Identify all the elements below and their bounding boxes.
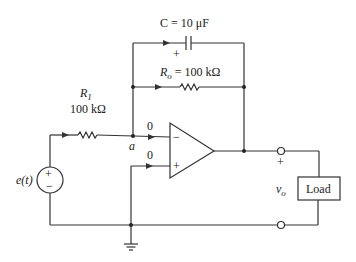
capacitor-label: C = 10 μF [160,16,209,30]
current-arrow-icon [148,134,155,140]
input-resistor-value: 100 kΩ [70,102,106,116]
current-arrow-icon [155,84,162,90]
noninverting-current-label: 0 [147,148,153,162]
output-voltage-label: vo [276,182,286,198]
current-arrow-icon [62,132,69,138]
output-terminal-top [278,148,285,155]
op-amp [170,123,281,178]
source-minus: − [46,179,53,193]
node-a-dot [131,134,135,138]
output-load [50,148,340,229]
opamp-plus: + [173,159,180,173]
output-terminal-bottom [278,222,285,229]
circuit-diagram: C = 10 μF + Ro = 100 kΩ R1 100 kΩ a 0 + … [0,0,356,262]
noninverting-branch [131,163,170,225]
ground-icon [124,225,138,250]
opamp-minus: − [173,130,180,144]
feedback-resistor-branch [131,84,246,90]
input-resistor-symbol: R1 [79,86,92,102]
current-arrow-icon [163,40,170,46]
node-a-label: a [129,139,135,153]
inverting-current-label: 0 [147,119,153,133]
source-label: e(t) [16,173,33,187]
capacitor-polarity: + [173,47,180,61]
capacitor-branch [133,36,244,151]
current-arrow-icon [146,163,153,169]
load-label: Load [306,182,331,196]
output-plus: + [277,155,284,169]
feedback-resistor-label: Ro = 100 kΩ [159,65,221,81]
